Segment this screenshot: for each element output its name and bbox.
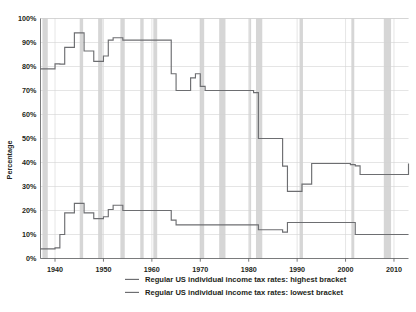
x-tick-label: 2000 xyxy=(338,265,354,274)
y-tick-label: 90% xyxy=(22,38,37,47)
x-tick-label: 1970 xyxy=(192,265,208,274)
y-tick-label: 60% xyxy=(22,110,37,119)
x-tick-label: 1940 xyxy=(47,265,63,274)
y-tick-label: 80% xyxy=(22,62,37,71)
x-tick-label: 2010 xyxy=(386,265,402,274)
x-axis-tick-labels: 19401950196019701980199020002010 xyxy=(47,265,402,274)
legend-label: Regular US individual income tax rates: … xyxy=(145,288,343,297)
tax-rate-line-chart: 0%10%20%30%40%50%60%70%80%90%100% 194019… xyxy=(0,0,416,312)
y-tick-label: 0% xyxy=(26,254,37,263)
y-axis-title: Percentage xyxy=(5,141,14,180)
y-axis-tick-labels: 0%10%20%30%40%50%60%70%80%90%100% xyxy=(18,14,37,263)
x-tick-label: 1960 xyxy=(144,265,160,274)
chart-container: 0%10%20%30%40%50%60%70%80%90%100% 194019… xyxy=(0,0,416,312)
y-tick-label: 40% xyxy=(22,158,37,167)
y-tick-label: 20% xyxy=(22,206,37,215)
y-tick-label: 10% xyxy=(22,230,37,239)
legend-label: Regular US individual income tax rates: … xyxy=(145,275,347,284)
y-tick-label: 100% xyxy=(18,14,37,23)
x-tick-label: 1950 xyxy=(95,265,111,274)
chart-legend: Regular US individual income tax rates: … xyxy=(125,275,347,297)
x-tick-label: 1990 xyxy=(289,265,305,274)
x-tick-label: 1980 xyxy=(241,265,257,274)
y-tick-label: 50% xyxy=(22,134,37,143)
y-tick-label: 70% xyxy=(22,86,37,95)
y-tick-label: 30% xyxy=(22,182,37,191)
